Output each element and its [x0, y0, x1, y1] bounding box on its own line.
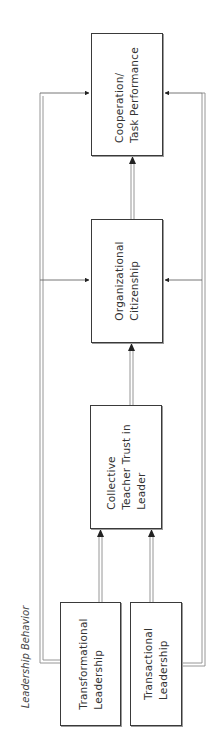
node-label: Transformational Leadership: [76, 618, 106, 709]
node-label: Collective Teacher Trust in Leader: [104, 424, 149, 510]
node-cooperation-task-performance: Cooperation/ Task Performance: [91, 33, 163, 156]
node-transformational-leadership: Transformational Leadership: [60, 602, 121, 726]
node-label: Transactional Leadership: [141, 628, 171, 700]
node-transactional-leadership: Transactional Leadership: [130, 602, 182, 726]
node-label: Organizational Citizenship: [112, 241, 142, 320]
leadership-diagram: Cooperation/ Task Performance Organizati…: [0, 0, 212, 752]
node-organizational-citizenship: Organizational Citizenship: [91, 219, 163, 343]
node-label: Cooperation/ Task Performance: [112, 47, 142, 143]
node-collective-teacher-trust: Collective Teacher Trust in Leader: [90, 405, 162, 529]
group-label-leadership-behavior: Leadership Behavior: [20, 606, 31, 709]
